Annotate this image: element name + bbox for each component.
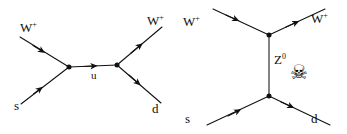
left-outgoing-d-label: d <box>152 102 159 115</box>
right-outgoing-w-label: W+ <box>311 12 328 25</box>
right-incoming-w-line <box>213 9 269 35</box>
left-outgoing-w-label: W+ <box>147 14 164 27</box>
right-vertex-bottom <box>267 94 272 99</box>
left-outgoing-w-arrow <box>131 46 140 54</box>
left-vertex-1 <box>67 65 72 70</box>
left-incoming-s-label: s <box>14 99 19 112</box>
left-u-propagator-label: u <box>91 70 97 81</box>
right-outgoing-w-arrow <box>286 23 296 28</box>
left-diagram-group <box>20 27 162 104</box>
left-incoming-w-label: W+ <box>20 21 37 34</box>
skull-and-crossbones-icon: ☠ <box>290 62 308 82</box>
left-outgoing-d-line <box>117 65 161 103</box>
left-incoming-s-line <box>21 67 69 104</box>
right-outgoing-d-arrow <box>281 102 291 107</box>
left-outgoing-d-arrow <box>129 75 138 83</box>
right-vertex-top <box>267 33 272 38</box>
right-incoming-s-label: s <box>185 112 190 125</box>
right-incoming-w-arrow <box>226 15 236 20</box>
right-outgoing-d-line <box>269 96 330 125</box>
left-vertex-2 <box>115 63 120 68</box>
left-incoming-s-arrow <box>34 89 41 94</box>
right-diagram-group <box>207 9 330 125</box>
right-outgoing-d-label: d <box>311 112 318 125</box>
left-incoming-w-line <box>20 37 69 67</box>
right-incoming-w-label: W+ <box>183 15 200 28</box>
right-z-propagator-label: Z0 <box>274 53 286 66</box>
feynman-diagram-figure: W+ s u W+ d W+ W+ Z0 s d ☠ <box>0 0 347 134</box>
right-incoming-s-arrow <box>228 111 238 116</box>
left-incoming-w-arrow <box>33 46 42 52</box>
